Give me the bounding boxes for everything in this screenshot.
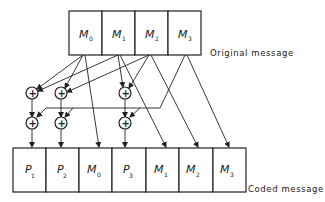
xor-icon: +	[119, 117, 131, 129]
svg-text:0: 0	[89, 35, 93, 42]
xor-icon: +	[119, 87, 131, 99]
xor-icon: +	[26, 117, 38, 129]
svg-text:0: 0	[97, 171, 101, 178]
svg-text:+: +	[29, 88, 37, 99]
wires	[32, 55, 229, 147]
svg-text:+: +	[58, 88, 66, 99]
xor-icon: +	[55, 117, 67, 129]
svg-text:M: M	[186, 163, 196, 176]
svg-text:+: +	[122, 88, 130, 99]
original-message-label: Original message	[210, 48, 294, 58]
svg-text:M: M	[87, 163, 97, 176]
svg-text:2: 2	[196, 171, 200, 178]
svg-text:3: 3	[129, 172, 133, 179]
svg-text:M: M	[154, 163, 164, 176]
svg-text:3: 3	[230, 171, 234, 178]
coded-message: P 1 P 2 M 0 P 3 M 1 M 2 M 3 Coded messag…	[13, 148, 324, 194]
coded-cell-m2	[179, 148, 213, 192]
xor-icon: +	[55, 87, 67, 99]
xor-icon: +	[26, 87, 38, 99]
original-message: M 0 M 1 M 2 M 3 Original message	[69, 11, 294, 58]
svg-text:M: M	[79, 28, 89, 41]
coded-message-label: Coded message	[248, 184, 324, 194]
svg-text:1: 1	[164, 171, 168, 178]
svg-text:+: +	[58, 118, 66, 129]
svg-text:+: +	[29, 118, 37, 129]
svg-text:1: 1	[31, 172, 35, 179]
svg-text:+: +	[122, 118, 130, 129]
svg-text:1: 1	[122, 35, 126, 42]
svg-text:M: M	[145, 28, 155, 41]
hamming-encoder-diagram: M 0 M 1 M 2 M 3 Original message	[0, 0, 325, 202]
svg-text:3: 3	[188, 35, 192, 42]
svg-text:2: 2	[155, 35, 159, 42]
svg-text:M: M	[220, 163, 230, 176]
svg-text:M: M	[178, 28, 188, 41]
svg-text:M: M	[112, 28, 122, 41]
coded-cell-m3	[213, 148, 246, 192]
svg-text:2: 2	[63, 172, 67, 179]
